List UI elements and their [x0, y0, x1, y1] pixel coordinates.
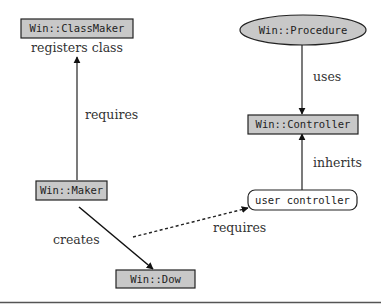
node-usercontroller: user controller	[248, 190, 357, 210]
node-dow-label: Win::Dow	[130, 273, 181, 285]
node-procedure: Win::Procedure	[240, 15, 366, 45]
node-dow: Win::Dow	[116, 270, 195, 288]
classmaker-note: registers class	[31, 40, 123, 55]
node-procedure-label: Win::Procedure	[259, 24, 348, 36]
edge-label-creates: creates	[53, 232, 100, 247]
node-controller-label: Win::Controller	[256, 118, 351, 130]
diagram-svg: Win::ClassMaker registers class Win::Pro…	[0, 0, 381, 307]
edge-label-requires-classmaker: requires	[85, 107, 138, 122]
edge-label-inherits: inherits	[313, 155, 362, 170]
diagram-canvas: Win::ClassMaker registers class Win::Pro…	[0, 0, 381, 307]
node-controller: Win::Controller	[248, 115, 358, 134]
node-usercontroller-label: user controller	[255, 194, 350, 206]
edge-label-requires-usercontroller: requires	[213, 220, 266, 235]
node-classmaker-label: Win::ClassMaker	[30, 22, 125, 34]
node-classmaker: Win::ClassMaker	[21, 19, 133, 38]
edge-label-uses: uses	[313, 69, 341, 84]
node-maker-label: Win::Maker	[40, 184, 103, 196]
node-maker: Win::Maker	[36, 181, 107, 200]
